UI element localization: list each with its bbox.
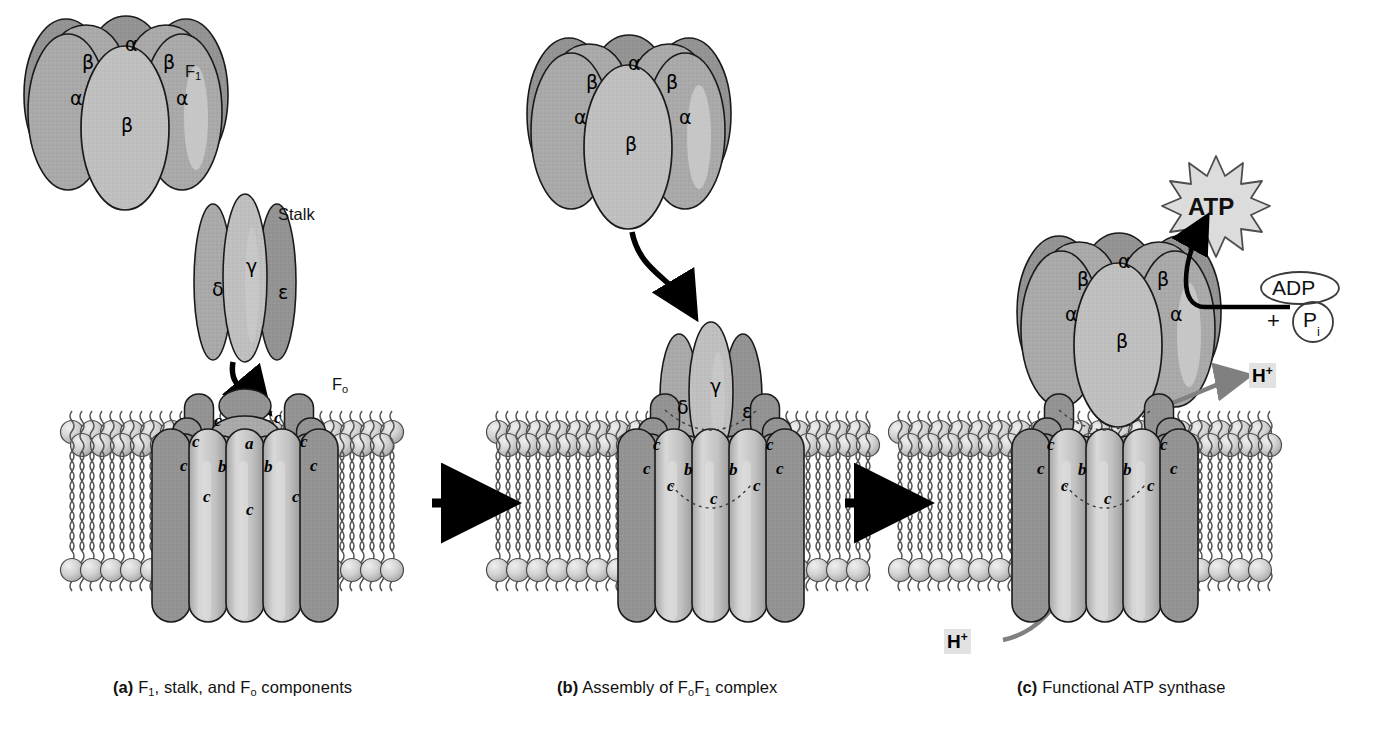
caption-c-text: Functional ATP synthase [1042,678,1225,696]
subunit-label-c: c [653,435,661,455]
subunit-label-β: β [1077,268,1089,290]
subunit-label-β: β [121,114,133,136]
subunit-label-b: b [1078,460,1087,480]
subunit-label-c: c [753,476,761,496]
f1-label: F1 [185,62,201,81]
subunit-label-c: c [180,456,188,476]
subunit-label-δ: δ [212,278,224,300]
subunit-label-b: b [218,457,227,477]
subunit-label-α: α [574,106,587,128]
subunit-label-α: α [679,106,692,128]
subunit-label-α: α [628,52,641,74]
caption-c: (c) Functional ATP synthase [1017,678,1225,697]
subunit-label-c: c [203,487,211,507]
subunit-label-γ: γ [710,375,721,397]
subunit-label-b: b [684,460,693,480]
subunit-label-α: α [125,33,138,55]
subunit-label-β: β [625,133,637,155]
caption-b-text: Assembly of FoF1 complex [582,678,777,696]
caption-a-text: F1, stalk, and Fo components [138,678,352,696]
subunit-label-ε: ε [278,281,288,303]
subunit-label-b: b [264,457,273,477]
subunit-label-β: β [666,71,678,93]
figure-canvas: αββααβδγεccccacbbccccαββααβδγεccccbbcccα… [0,0,1381,741]
caption-a-marker: (a) [113,678,133,696]
subunit-label-c: c [192,432,200,452]
subunit-label-δ: δ [677,396,689,418]
caption-c-marker: (c) [1017,678,1037,696]
subunit-label-β: β [586,71,598,93]
subunit-label-a: a [245,434,254,454]
subunit-label-c: c [643,459,651,479]
subunit-label-c: c [1160,435,1168,455]
subunit-label-c: c [667,476,675,496]
subunit-label-α: α [1065,303,1078,325]
adp-label: ADP [1272,276,1315,300]
caption-b-marker: (b) [557,678,578,696]
subunit-label-γ: γ [246,255,257,277]
subunit-label-c: c [310,456,318,476]
pi-label: Pi [1303,308,1320,335]
fo-complexes [152,389,1198,622]
subunit-label-c: c [1037,459,1045,479]
subunit-label-c: c [274,408,282,428]
subunit-label-α: α [176,87,189,109]
subunit-label-α: α [70,87,83,109]
subunit-label-c: c [1147,476,1155,496]
subunit-label-β: β [1157,268,1169,290]
subunit-label-b: b [1123,460,1132,480]
plus-sign: + [1267,308,1280,334]
subunit-label-c: c [776,459,784,479]
subunit-label-α: α [1118,250,1131,272]
subunit-label-c: c [300,432,308,452]
subunit-label-c: c [246,500,254,520]
fo-complex [152,389,338,622]
subunit-label-c: c [292,487,300,507]
fo-label: Fo [332,375,348,394]
subunit-label-β: β [82,51,94,73]
caption-b: (b) Assembly of FoF1 complex [557,678,777,697]
subunit-label-c: c [1061,476,1069,496]
subunit-label-β: β [163,51,175,73]
subunit-label-c: c [214,411,222,431]
subunit-label-c: c [1170,459,1178,479]
f1-descent-arrow [632,232,690,308]
subunit-label-α: α [1170,303,1183,325]
subunit-label-c: c [766,435,774,455]
subunit-label-b: b [729,460,738,480]
subunit-label-ε: ε [742,400,752,422]
subunit-label-c: c [1047,435,1055,455]
subunit-label-c: c [1104,489,1112,509]
atp-label: ATP [1188,193,1234,221]
proton-out-label: H+ [1249,363,1276,388]
caption-a: (a) F1, stalk, and Fo components [113,678,352,697]
subunit-label-β: β [1116,330,1128,352]
subunit-label-c: c [710,489,718,509]
proton-in-label: H+ [944,629,971,654]
stalk-label: Stalk [278,205,315,224]
